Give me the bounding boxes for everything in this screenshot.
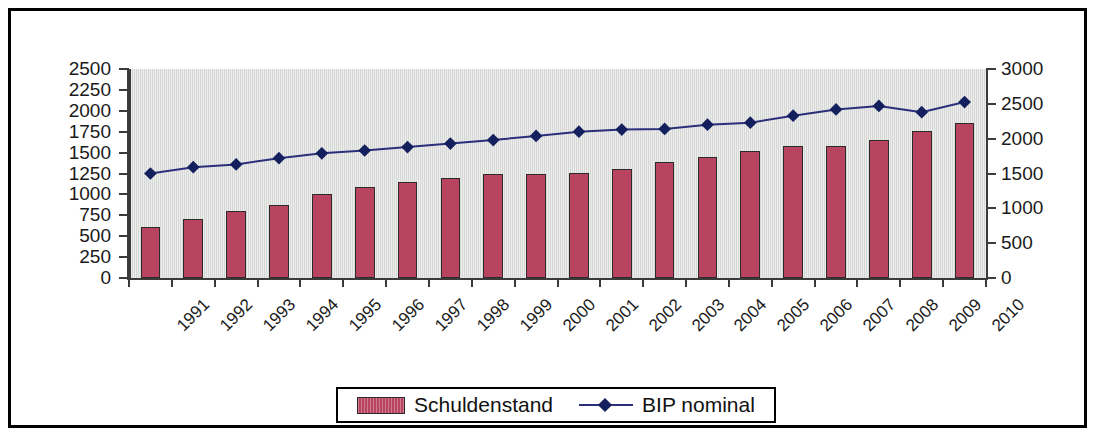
x-axis-label: 2010 xyxy=(988,295,1029,336)
x-tick xyxy=(728,278,730,287)
x-axis-label: 1995 xyxy=(345,295,386,336)
x-axis-label: 2009 xyxy=(945,295,986,336)
x-axis-label: 1997 xyxy=(431,295,472,336)
x-tick xyxy=(128,278,130,287)
x-tick xyxy=(171,278,173,287)
x-tick xyxy=(856,278,858,287)
x-tick xyxy=(514,278,516,287)
bip-marker-2005 xyxy=(744,116,757,129)
bip-marker-1998 xyxy=(444,137,457,150)
left-tick-label: 1500 xyxy=(49,143,111,162)
right-tick-label: 0 xyxy=(1001,268,1071,287)
x-axis-label: 2005 xyxy=(773,295,814,336)
left-tick-label: 250 xyxy=(49,247,111,266)
x-tick xyxy=(557,278,559,287)
x-axis-label: 2002 xyxy=(645,295,686,336)
x-axis-label: 2008 xyxy=(902,295,943,336)
x-tick xyxy=(814,278,816,287)
right-tick-label: 500 xyxy=(1001,233,1071,252)
x-tick xyxy=(342,278,344,287)
x-tick xyxy=(942,278,944,287)
bar-swatch-icon xyxy=(357,397,405,414)
bip-marker-1996 xyxy=(358,144,371,157)
left-tick xyxy=(119,193,129,195)
x-tick xyxy=(685,278,687,287)
bip-marker-1992 xyxy=(187,161,200,174)
right-tick xyxy=(986,207,996,209)
x-tick xyxy=(428,278,430,287)
x-tick xyxy=(385,278,387,287)
x-axis-label: 2007 xyxy=(859,295,900,336)
bip-marker-2006 xyxy=(787,109,800,122)
left-tick-label: 2250 xyxy=(49,80,111,99)
legend-label-bip-nominal: BIP nominal xyxy=(642,393,755,417)
x-axis-label: 2006 xyxy=(816,295,857,336)
x-axis-label: 2003 xyxy=(688,295,729,336)
bip-marker-1991 xyxy=(144,167,157,180)
left-tick xyxy=(119,110,129,112)
x-tick xyxy=(214,278,216,287)
bip-marker-1994 xyxy=(273,152,286,165)
left-tick xyxy=(119,173,129,175)
bip-line-path xyxy=(150,102,964,173)
x-axis-label: 2000 xyxy=(559,295,600,336)
x-tick xyxy=(642,278,644,287)
x-tick xyxy=(985,278,987,287)
x-tick xyxy=(899,278,901,287)
x-tick xyxy=(471,278,473,287)
legend-item-bip-nominal: BIP nominal xyxy=(579,393,755,417)
right-tick xyxy=(986,242,996,244)
left-tick xyxy=(119,256,129,258)
x-axis-label: 1991 xyxy=(174,295,215,336)
left-tick xyxy=(119,152,129,154)
left-tick xyxy=(119,214,129,216)
line-series-bip-nominal xyxy=(129,69,986,278)
left-tick-label: 500 xyxy=(49,226,111,245)
x-axis-label: 1998 xyxy=(473,295,514,336)
x-axis-label: 1992 xyxy=(216,295,257,336)
x-axis-label: 1994 xyxy=(302,295,343,336)
bip-marker-2000 xyxy=(530,130,543,143)
left-tick-label: 0 xyxy=(49,268,111,287)
chart-frame: 02505007501000125015001750200022502500 0… xyxy=(8,8,1087,428)
right-tick xyxy=(986,173,996,175)
x-axis-label: 2004 xyxy=(731,295,772,336)
right-tick xyxy=(986,103,996,105)
bip-marker-2004 xyxy=(701,118,714,131)
bip-marker-2007 xyxy=(830,103,843,116)
line-diamond-icon xyxy=(579,398,633,412)
left-tick xyxy=(119,235,129,237)
right-tick-label: 2000 xyxy=(1001,129,1071,148)
right-tick xyxy=(986,277,996,279)
left-tick-label: 1250 xyxy=(49,164,111,183)
legend-label-schuldenstand: Schuldenstand xyxy=(414,393,553,417)
legend-item-schuldenstand: Schuldenstand xyxy=(357,393,553,417)
bip-marker-1997 xyxy=(401,141,414,154)
left-tick-label: 1750 xyxy=(49,122,111,141)
x-tick xyxy=(299,278,301,287)
chart-legend: Schuldenstand BIP nominal xyxy=(336,387,776,423)
bip-marker-1999 xyxy=(487,134,500,147)
x-axis-label: 1999 xyxy=(516,295,557,336)
bip-marker-2002 xyxy=(615,123,628,136)
x-tick xyxy=(257,278,259,287)
bip-marker-2010 xyxy=(958,96,971,109)
right-tick-label: 1000 xyxy=(1001,198,1071,217)
right-tick-label: 3000 xyxy=(1001,59,1071,78)
bip-marker-2008 xyxy=(873,100,886,113)
left-tick-label: 1000 xyxy=(49,184,111,203)
left-tick-label: 750 xyxy=(49,205,111,224)
left-tick xyxy=(119,89,129,91)
left-tick-label: 2500 xyxy=(49,59,111,78)
right-tick xyxy=(986,138,996,140)
bip-marker-2009 xyxy=(915,106,928,119)
x-axis-label: 1996 xyxy=(388,295,429,336)
right-tick-label: 2500 xyxy=(1001,94,1071,113)
right-tick xyxy=(986,68,996,70)
left-tick-label: 2000 xyxy=(49,101,111,120)
x-tick xyxy=(771,278,773,287)
x-axis-label: 1993 xyxy=(259,295,300,336)
left-tick xyxy=(119,68,129,70)
bip-marker-1993 xyxy=(230,158,243,171)
x-axis-label: 2001 xyxy=(602,295,643,336)
